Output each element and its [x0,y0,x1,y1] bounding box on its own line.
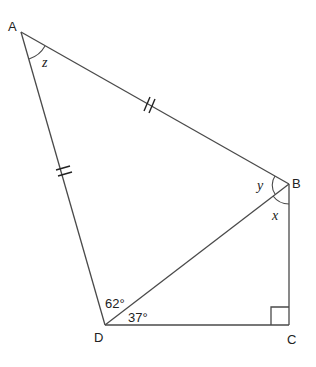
vertex-label-b: B [292,176,301,191]
angle-label-y: y [255,178,264,193]
angle-arc-y-icon [272,176,275,194]
angle-label-bdc: 37° [128,310,148,325]
angle-arc-x-icon [273,196,289,204]
diagram-svg: A B C D z y x 62° 37° [0,0,316,367]
vertex-label-d: D [94,330,103,345]
angle-label-x: x [271,208,279,223]
vertex-label-c: C [287,332,296,347]
right-angle-marker-icon [271,307,289,325]
geometry-diagram: A B C D z y x 62° 37° [0,0,316,367]
equal-mark-ad-icon [56,166,72,176]
angle-label-adb: 62° [105,296,125,311]
vertex-label-a: A [8,19,17,34]
segment-bd [105,184,289,325]
segment-da [21,32,105,325]
angle-label-z: z [41,55,48,70]
segment-ab [21,32,289,184]
